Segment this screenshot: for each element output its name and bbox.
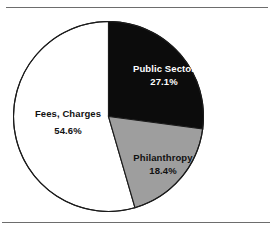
slice-label-philanthropy: Philanthropy 18.4%	[119, 152, 207, 178]
slice-label-fees-charges-name: Fees, Charges	[35, 108, 101, 119]
slice-label-philanthropy-value: 18.4%	[119, 165, 207, 178]
slice-label-fees-charges-value: 54.6%	[22, 125, 114, 138]
slice-label-public-sector-value: 27.1%	[121, 76, 207, 89]
bottom-divider-rule	[2, 222, 270, 223]
slice-label-public-sector: Public Sector 27.1%	[121, 63, 207, 89]
pie-chart-figure: Public Sector 27.1% Philanthropy 18.4% F…	[0, 0, 273, 235]
slice-label-public-sector-name: Public Sector	[133, 63, 195, 74]
top-divider-rule	[6, 7, 268, 8]
slice-label-philanthropy-name: Philanthropy	[133, 152, 192, 163]
slice-label-fees-charges: Fees, Charges 54.6%	[22, 108, 114, 138]
